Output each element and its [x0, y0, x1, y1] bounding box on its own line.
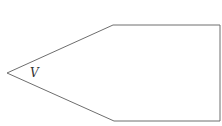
pentagon-shape — [7, 25, 220, 121]
pentagon-diagram: V — [0, 0, 222, 126]
vertex-label-v: V — [30, 66, 40, 80]
